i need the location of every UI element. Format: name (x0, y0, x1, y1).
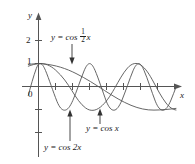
origin-label: 0 (28, 90, 33, 99)
cosine-graphs-figure: y x 2 1 0 y = cos 12x y = cos x y = cos … (0, 0, 195, 164)
label-cos-half-x-prefix: y = cos (51, 32, 80, 42)
label-cos-half-x: y = cos 12x (51, 29, 90, 45)
label-cos-x: y = cos x (86, 124, 119, 133)
y-axis (36, 13, 42, 158)
arrow-to-cos-half-x (69, 44, 74, 65)
label-cos-2x-suffix: x (77, 142, 81, 152)
y-axis-arrowhead (36, 13, 42, 21)
label-cos-half-x-suffix: x (86, 32, 90, 42)
x-axis-label: x (180, 91, 184, 100)
y-tick-label-2: 2 (26, 36, 31, 45)
y-axis-label: y (28, 11, 32, 20)
arrow-to-cos-x (97, 109, 102, 125)
label-cos-x-suffix: x (115, 123, 119, 133)
arrow-to-cos-2x (67, 110, 72, 142)
plot-area (0, 0, 195, 164)
label-cos-2x: y = cos 2x (44, 143, 81, 152)
label-cos-x-prefix: y = cos (86, 123, 115, 133)
y-tick-label-1: 1 (27, 57, 32, 66)
label-cos-2x-prefix: y = cos 2 (44, 142, 77, 152)
